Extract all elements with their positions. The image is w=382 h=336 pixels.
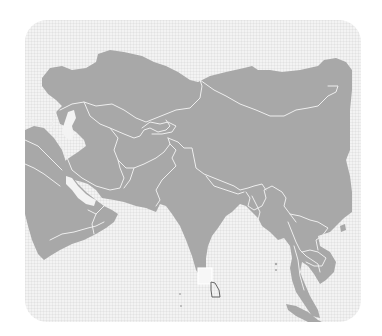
asia-map — [25, 20, 361, 322]
land-maldives-2 — [180, 305, 182, 307]
land-andaman-islands — [275, 263, 277, 265]
land-mainland-asia[interactable] — [42, 50, 352, 318]
highlight-box — [198, 268, 212, 284]
land-maldives — [179, 293, 181, 295]
land-andaman-islands-2 — [275, 269, 277, 271]
land-hainan[interactable] — [340, 224, 346, 232]
map-panel — [25, 20, 361, 322]
sri-lanka-highlight — [198, 268, 220, 297]
land-masses — [25, 50, 352, 322]
border-turkey-syria — [25, 118, 52, 124]
